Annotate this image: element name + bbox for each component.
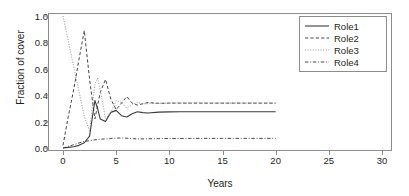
- x-tick-label: 30: [362, 155, 402, 166]
- x-tick-mark: [63, 151, 64, 155]
- legend-item: Role4: [304, 56, 382, 68]
- series-role4: [63, 138, 276, 148]
- x-tick-mark: [382, 151, 383, 155]
- legend-item: Role1: [304, 20, 382, 32]
- x-tick-label: 25: [309, 155, 349, 166]
- legend-line-role4: [304, 57, 330, 67]
- x-tick-mark: [276, 151, 277, 155]
- legend-line-role2: [304, 33, 330, 43]
- x-tick-mark: [116, 151, 117, 155]
- legend-label: Role1: [330, 21, 359, 32]
- legend-item: Role2: [304, 32, 382, 44]
- x-tick-label: 15: [203, 155, 243, 166]
- legend-label: Role4: [330, 57, 359, 68]
- series-role3: [63, 16, 276, 131]
- legend-line-role1: [304, 21, 330, 31]
- legend-label: Role3: [330, 45, 359, 56]
- x-tick-label: 10: [149, 155, 189, 166]
- x-tick-label: 5: [96, 155, 136, 166]
- legend-line-role3: [304, 45, 330, 55]
- chart-legend: Role1 Role2 Role3 Role4: [299, 16, 387, 72]
- x-tick-label: 0: [43, 155, 83, 166]
- legend-item: Role3: [304, 44, 382, 56]
- x-tick-mark: [169, 151, 170, 155]
- x-tick-mark: [223, 151, 224, 155]
- legend-label: Role2: [330, 33, 359, 44]
- x-tick-mark: [329, 151, 330, 155]
- x-tick-label: 20: [256, 155, 296, 166]
- series-role1: [63, 100, 276, 148]
- chart-figure: Markov chain Fraction of cover Years 0.0…: [0, 0, 409, 196]
